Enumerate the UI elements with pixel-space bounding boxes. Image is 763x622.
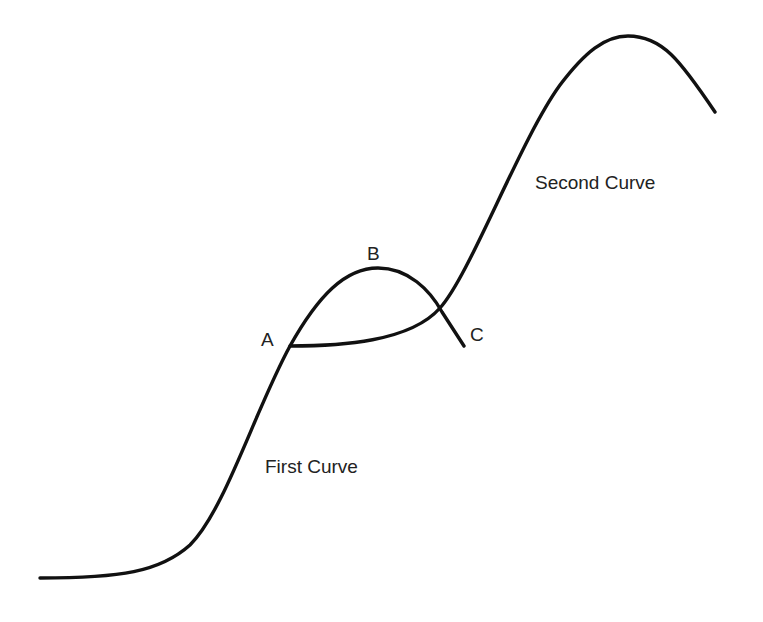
first-curve-line xyxy=(40,268,464,578)
second-curve-label: Second Curve xyxy=(535,173,655,192)
point-b-label: B xyxy=(367,244,380,263)
point-c-label: C xyxy=(470,325,484,344)
point-a-label: A xyxy=(261,330,274,349)
diagram-canvas xyxy=(0,0,763,622)
first-curve-label: First Curve xyxy=(265,457,358,476)
